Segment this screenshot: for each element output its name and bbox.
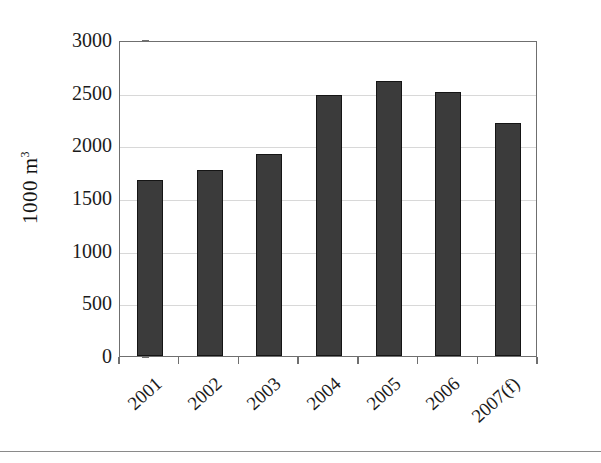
bar [435,92,461,356]
bar [137,180,163,356]
x-axis-tick [536,357,537,364]
y-axis-tick-label: 3000 [38,30,112,50]
x-axis-tick [118,357,119,364]
bar [256,154,282,356]
y-axis-tick-label: 500 [38,293,112,313]
bottom-divider [0,451,601,452]
y-axis-tick-label: 0 [38,346,112,366]
y-axis-tick-labels: 050010001500200025003000 [30,0,112,463]
bar-chart-figure: 1000 m3 050010001500200025003000 2001200… [0,0,601,463]
y-axis-tick-label: 1500 [38,188,112,208]
bar [495,123,521,356]
x-axis-tick [297,357,298,364]
y-axis-tick-label: 1000 [38,241,112,261]
plot-area [119,41,537,357]
x-axis-tick [417,357,418,364]
x-axis-tick [178,357,179,364]
bar [316,95,342,356]
bar [376,81,402,356]
bar [197,170,223,356]
x-axis-tick [238,357,239,364]
y-axis-tick-label: 2000 [38,135,112,155]
x-axis-tick [357,357,358,364]
y-axis-tick-label: 2500 [38,83,112,103]
x-axis-tick [477,357,478,364]
